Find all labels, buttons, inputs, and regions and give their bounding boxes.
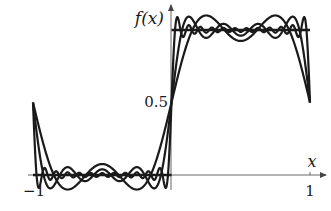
x-tick-label-neg1: −1 (23, 182, 45, 200)
x-tick-label-1: 1 (305, 182, 315, 200)
y-axis-label: f(x) (133, 8, 164, 28)
fourier-plot: f(x) x 0.5 −1 1 (0, 0, 331, 211)
x-axis-label: x (307, 152, 316, 171)
y-tick-label-0.5: 0.5 (144, 93, 168, 111)
fourier-curve-12-terms (33, 17, 310, 188)
